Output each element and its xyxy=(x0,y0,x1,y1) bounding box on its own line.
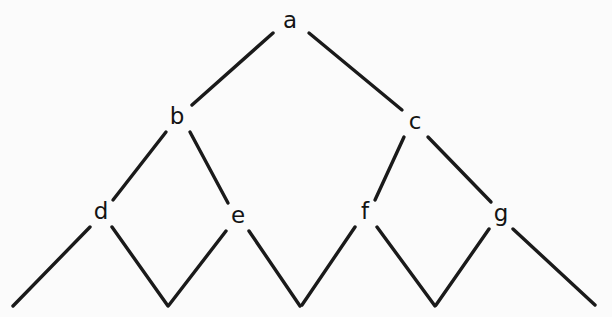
tree-edge-e-leaf-left xyxy=(169,231,226,305)
tree-node-f: f xyxy=(351,200,379,223)
tree-edges-canvas xyxy=(0,0,612,317)
tree-edge-c-g xyxy=(428,137,491,202)
tree-edge-c-f xyxy=(375,137,404,200)
tree-edge-d-leaf-left xyxy=(13,227,90,306)
edge-group xyxy=(13,33,595,306)
tree-edge-a-b xyxy=(192,33,273,105)
tree-node-e: e xyxy=(224,204,252,227)
tree-edge-g-leaf-right xyxy=(513,229,595,305)
tree-edge-f-leaf-right xyxy=(377,227,435,306)
tree-edge-a-c xyxy=(309,33,402,110)
tree-node-g: g xyxy=(487,202,515,225)
tree-edge-d-leaf-right xyxy=(112,227,168,306)
binary-tree-diagram: abcdefg xyxy=(0,0,612,317)
tree-node-a: a xyxy=(276,9,304,32)
tree-edge-b-d xyxy=(113,132,166,200)
tree-edge-g-leaf-left xyxy=(436,229,489,305)
tree-node-b: b xyxy=(163,105,191,128)
tree-node-d: d xyxy=(87,200,115,223)
tree-edge-f-leaf-left xyxy=(302,227,355,305)
tree-node-c: c xyxy=(401,110,429,133)
tree-edge-b-e xyxy=(190,132,228,203)
tree-edge-e-leaf-right xyxy=(249,231,300,306)
